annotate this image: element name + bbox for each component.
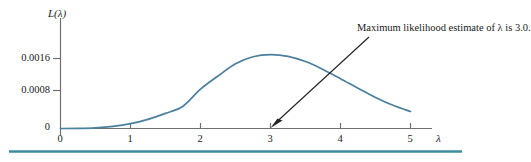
x-tick-label-2: 2 — [190, 133, 210, 145]
y-tick-label-0: 0 — [0, 121, 50, 133]
annotation-arrow-line — [276, 37, 369, 123]
mle-annotation-text: Maximum likelihood estimate of λ is 3.0. — [357, 21, 479, 34]
x-tick-label-0: 0 — [50, 133, 70, 145]
x-tick-label-3: 3 — [260, 133, 280, 145]
x-tick-label-5: 5 — [400, 133, 420, 145]
likelihood-curve — [61, 55, 411, 129]
y-axis-label: L(λ) — [48, 7, 66, 19]
x-axis-label: λ — [436, 132, 441, 144]
y-tick-label-0.0016: 0.0016 — [0, 52, 50, 64]
x-tick-label-4: 4 — [330, 133, 350, 145]
x-tick-label-1: 1 — [120, 133, 140, 145]
annotation-arrowhead — [271, 119, 283, 129]
y-tick-label-0.0008: 0.0008 — [0, 84, 50, 96]
